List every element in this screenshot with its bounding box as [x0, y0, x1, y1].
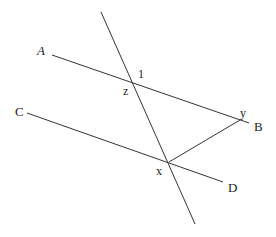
segment-xy: [169, 120, 240, 162]
diagram-svg: A 1 z C y B x D: [0, 0, 276, 237]
label-b: B: [254, 119, 263, 134]
label-c: C: [15, 104, 24, 119]
label-x: x: [156, 164, 162, 178]
label-z: z: [123, 84, 128, 98]
geometry-diagram: A 1 z C y B x D: [0, 0, 276, 237]
label-d: D: [228, 180, 237, 195]
line-ab: [52, 55, 249, 123]
label-angle-1: 1: [138, 67, 144, 81]
label-a: A: [36, 43, 45, 58]
label-y: y: [240, 106, 246, 120]
transversal-line: [101, 12, 195, 224]
